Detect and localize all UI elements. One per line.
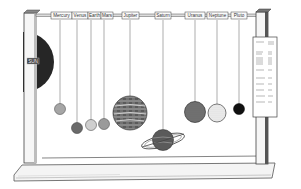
plaque-jupiter: Jupiter	[122, 12, 139, 19]
svg-text:Jupiter: Jupiter	[124, 13, 138, 18]
sun-label: SUN	[27, 58, 39, 64]
plaque-venus: Venus	[72, 12, 88, 19]
svg-text:Earth: Earth	[89, 13, 100, 18]
svg-text:Mars: Mars	[102, 13, 113, 18]
svg-text:Saturn: Saturn	[156, 13, 170, 18]
planet-mercury	[55, 104, 66, 115]
svg-text:Pluto: Pluto	[234, 13, 245, 18]
info-panel	[253, 37, 277, 117]
svg-text:Venus: Venus	[74, 13, 87, 18]
plaque-neptune: Neptune	[207, 12, 228, 19]
planet-saturn	[140, 130, 186, 153]
plaque-pluto: Pluto	[231, 12, 247, 19]
svg-text:Neptune: Neptune	[209, 13, 227, 18]
plaque-earth: Earth	[88, 12, 101, 19]
svg-text:Mercury: Mercury	[53, 13, 70, 18]
plaque-saturn: Saturn	[155, 12, 171, 19]
planet-pluto	[234, 104, 245, 115]
sun-label-text: SUN	[28, 59, 38, 64]
solar-system-model-diagram: SUN	[0, 0, 301, 189]
planet-jupiter	[113, 96, 147, 130]
plaque-mars: Mars	[101, 12, 113, 19]
base-board	[14, 163, 275, 181]
back-rail	[42, 156, 262, 158]
plaque-mercury: Mercury	[51, 12, 72, 19]
planet-neptune	[208, 104, 226, 122]
planet-uranus	[185, 102, 206, 123]
planet-earth	[86, 120, 97, 131]
planets	[55, 96, 245, 152]
planet-mars	[99, 119, 110, 130]
plaque-uranus: Uranus	[185, 12, 205, 19]
planet-venus	[72, 123, 83, 134]
svg-text:Uranus: Uranus	[188, 13, 204, 18]
